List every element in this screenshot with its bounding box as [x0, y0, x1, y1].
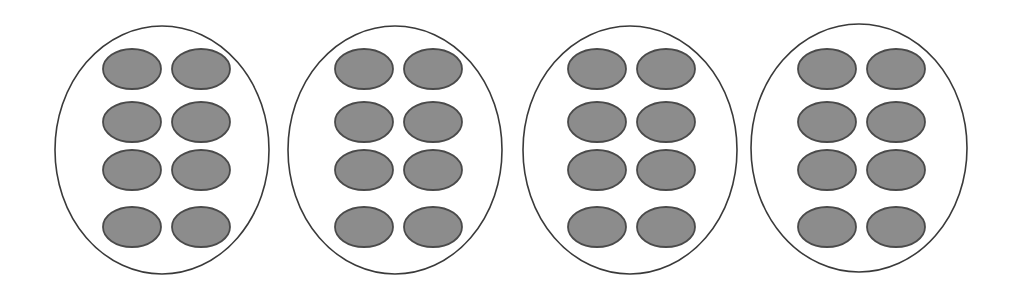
item-oval [335, 207, 393, 247]
item-oval [103, 150, 161, 190]
item-oval [172, 150, 230, 190]
group-4 [751, 24, 967, 272]
item-oval [798, 207, 856, 247]
item-oval [867, 49, 925, 89]
item-oval [103, 207, 161, 247]
item-oval [798, 102, 856, 142]
item-oval [637, 207, 695, 247]
item-oval [798, 150, 856, 190]
item-oval [404, 49, 462, 89]
item-oval [568, 49, 626, 89]
group-1 [55, 26, 269, 274]
group-3 [523, 26, 737, 274]
item-oval [867, 102, 925, 142]
item-oval [404, 102, 462, 142]
group-outline-ellipse [55, 26, 269, 274]
item-oval [867, 207, 925, 247]
item-oval [335, 49, 393, 89]
group-outline-ellipse [288, 26, 502, 274]
item-oval [798, 49, 856, 89]
item-oval [172, 207, 230, 247]
item-oval [568, 102, 626, 142]
item-oval [404, 207, 462, 247]
item-oval [637, 102, 695, 142]
item-oval [637, 49, 695, 89]
group-outline-ellipse [523, 26, 737, 274]
item-oval [172, 102, 230, 142]
group-2 [288, 26, 502, 274]
item-oval [103, 49, 161, 89]
item-oval [637, 150, 695, 190]
group-outline-ellipse [751, 24, 967, 272]
item-oval [867, 150, 925, 190]
item-oval [335, 150, 393, 190]
item-oval [568, 207, 626, 247]
grouping-diagram [0, 0, 1010, 294]
item-oval [335, 102, 393, 142]
item-oval [172, 49, 230, 89]
item-oval [404, 150, 462, 190]
item-oval [103, 102, 161, 142]
item-oval [568, 150, 626, 190]
